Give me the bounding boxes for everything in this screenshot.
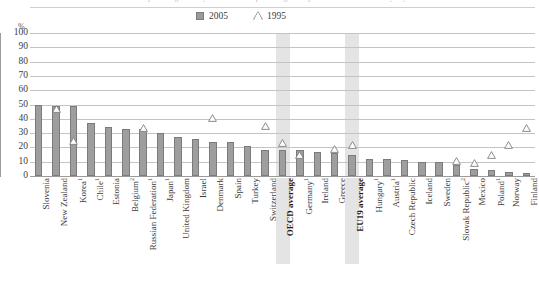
y-tick-label: 80 bbox=[0, 57, 28, 67]
triangle-marker bbox=[52, 105, 61, 113]
x-tick-label: Estonia bbox=[112, 178, 121, 205]
bar bbox=[52, 106, 60, 176]
bar bbox=[261, 150, 269, 176]
triangle-marker bbox=[470, 159, 479, 167]
bar bbox=[505, 172, 513, 176]
legend-item-1995: 1995 bbox=[254, 11, 286, 21]
x-tick-label: Mexico bbox=[478, 178, 487, 206]
y-tick-label: 40 bbox=[0, 114, 28, 124]
y-tick-label: 50 bbox=[0, 100, 28, 110]
x-tick-label: Israel bbox=[199, 178, 208, 198]
gridline bbox=[30, 33, 535, 34]
bar bbox=[470, 169, 478, 176]
bar bbox=[383, 159, 391, 176]
bar bbox=[331, 153, 339, 176]
bar bbox=[488, 170, 496, 176]
gridline bbox=[30, 47, 535, 48]
y-axis-line bbox=[0, 33, 1, 177]
x-tick-label: Chile1 bbox=[94, 178, 105, 201]
gridline bbox=[30, 62, 535, 63]
triangle-marker bbox=[348, 141, 357, 149]
legend-square-icon bbox=[196, 12, 204, 20]
y-tick-label: 100 bbox=[0, 28, 28, 38]
bar bbox=[105, 127, 113, 176]
legend-triangle-icon bbox=[254, 12, 262, 20]
bar bbox=[453, 165, 461, 176]
triangle-marker bbox=[208, 114, 217, 122]
gridline bbox=[30, 105, 535, 106]
x-tick-label: Hungary1 bbox=[373, 178, 384, 213]
bar bbox=[435, 162, 443, 176]
x-tick-label: Austria1 bbox=[390, 178, 401, 208]
x-tick-label: Slovak Republic2 bbox=[460, 178, 471, 241]
x-tick-label: Slovenia bbox=[42, 178, 51, 210]
bar bbox=[35, 105, 43, 177]
bar bbox=[227, 142, 235, 176]
legend-item-2005: 2005 bbox=[196, 11, 228, 21]
x-tick-label: New Zealand bbox=[60, 178, 69, 226]
triangle-marker bbox=[278, 139, 287, 147]
x-tick-label: Czech Republic bbox=[408, 178, 417, 235]
clipped-caption-text: percentage of 15-year-olds who report us… bbox=[148, 0, 407, 2]
y-tick-label: 20 bbox=[0, 142, 28, 152]
x-tick-label: Korea1 bbox=[77, 178, 88, 203]
x-tick-label: Finland bbox=[530, 178, 539, 206]
x-tick-label: Belgium2 bbox=[129, 178, 140, 212]
x-tick-label: Turkey bbox=[251, 178, 260, 204]
bar bbox=[244, 146, 252, 176]
bar bbox=[192, 139, 200, 176]
bar bbox=[139, 129, 147, 176]
bar bbox=[174, 137, 182, 176]
y-axis-tick-labels: 1009080706050403020100 bbox=[0, 33, 28, 177]
bar bbox=[122, 129, 130, 176]
y-tick-label: 60 bbox=[0, 85, 28, 95]
triangle-marker bbox=[452, 157, 461, 165]
top-divider bbox=[30, 7, 535, 8]
y-tick-label: 10 bbox=[0, 157, 28, 167]
gridline bbox=[30, 119, 535, 120]
x-tick-label: Sweden bbox=[443, 178, 452, 207]
legend-label-2005: 2005 bbox=[209, 11, 228, 21]
legend-label-1995: 1995 bbox=[267, 11, 286, 21]
bar bbox=[401, 160, 409, 176]
bar bbox=[418, 162, 426, 176]
gridline bbox=[30, 90, 535, 91]
x-tick-label: EU19 average bbox=[356, 178, 365, 232]
triangle-marker bbox=[522, 124, 531, 132]
x-tick-label: Iceland bbox=[425, 178, 434, 204]
triangle-marker bbox=[330, 145, 339, 153]
triangle-marker bbox=[261, 122, 270, 130]
gridline bbox=[30, 176, 535, 177]
x-tick-label: Poland1 bbox=[495, 178, 506, 206]
triangle-marker bbox=[487, 151, 496, 159]
x-axis-labels: SloveniaNew ZealandKorea1Chile1EstoniaBe… bbox=[30, 178, 535, 283]
chart-legend: 2005 1995 bbox=[196, 11, 286, 21]
x-tick-label: Denmark bbox=[216, 178, 225, 212]
x-tick-label: Norway bbox=[512, 178, 521, 207]
bar bbox=[523, 173, 531, 176]
x-tick-label: Russian Federation1 bbox=[147, 178, 158, 250]
x-tick-label: Spain bbox=[234, 178, 243, 199]
bar bbox=[87, 123, 95, 176]
triangle-marker bbox=[295, 151, 304, 159]
bar bbox=[348, 155, 356, 176]
bar bbox=[366, 159, 374, 176]
triangle-marker bbox=[69, 137, 78, 145]
y-tick-label: 90 bbox=[0, 42, 28, 52]
x-tick-label: OECD average bbox=[286, 178, 295, 236]
bar bbox=[314, 152, 322, 176]
bar bbox=[279, 150, 287, 176]
x-tick-label: Ireland bbox=[321, 178, 330, 203]
x-tick-label: Japan1 bbox=[164, 178, 175, 202]
triangle-marker bbox=[139, 124, 148, 132]
bar bbox=[209, 142, 217, 176]
y-tick-label: 70 bbox=[0, 71, 28, 81]
plot-area bbox=[30, 33, 535, 176]
y-tick-label: 30 bbox=[0, 128, 28, 138]
y-tick-label: 0 bbox=[0, 171, 28, 181]
x-tick-label: United Kingdom bbox=[182, 178, 191, 239]
gridline bbox=[30, 76, 535, 77]
triangle-marker bbox=[504, 141, 513, 149]
x-tick-label: Germany1 bbox=[303, 178, 314, 215]
